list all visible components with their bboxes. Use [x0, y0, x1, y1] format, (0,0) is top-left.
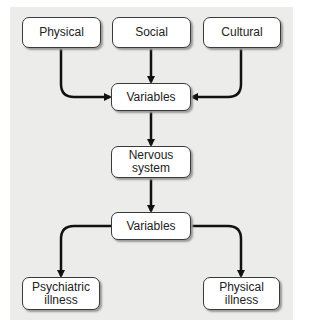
- node-label: Psychiatric illness: [32, 281, 90, 307]
- node-physical: Physical: [22, 17, 101, 48]
- node-physical-illness: Physical illness: [203, 277, 280, 310]
- node-social: Social: [112, 17, 191, 48]
- arrow-variables-to-psychiatric: [61, 226, 111, 276]
- node-nervous-system: Nervous system: [111, 146, 191, 178]
- node-label: Cultural: [221, 26, 262, 39]
- node-label: Variables: [126, 220, 175, 233]
- node-psychiatric-illness: Psychiatric illness: [22, 277, 100, 310]
- node-label: Variables: [126, 91, 175, 104]
- node-cultural: Cultural: [203, 17, 281, 48]
- node-variables-2: Variables: [111, 212, 191, 240]
- node-label: Physical illness: [219, 281, 264, 307]
- node-label: Physical: [39, 26, 84, 39]
- node-variables-1: Variables: [111, 83, 191, 111]
- node-label: Social: [135, 26, 168, 39]
- arrow-cultural-to-variables: [192, 48, 241, 97]
- arrow-physical-to-variables: [61, 48, 110, 97]
- node-label: Nervous system: [129, 149, 174, 175]
- arrow-variables-to-physical-illness: [191, 226, 241, 276]
